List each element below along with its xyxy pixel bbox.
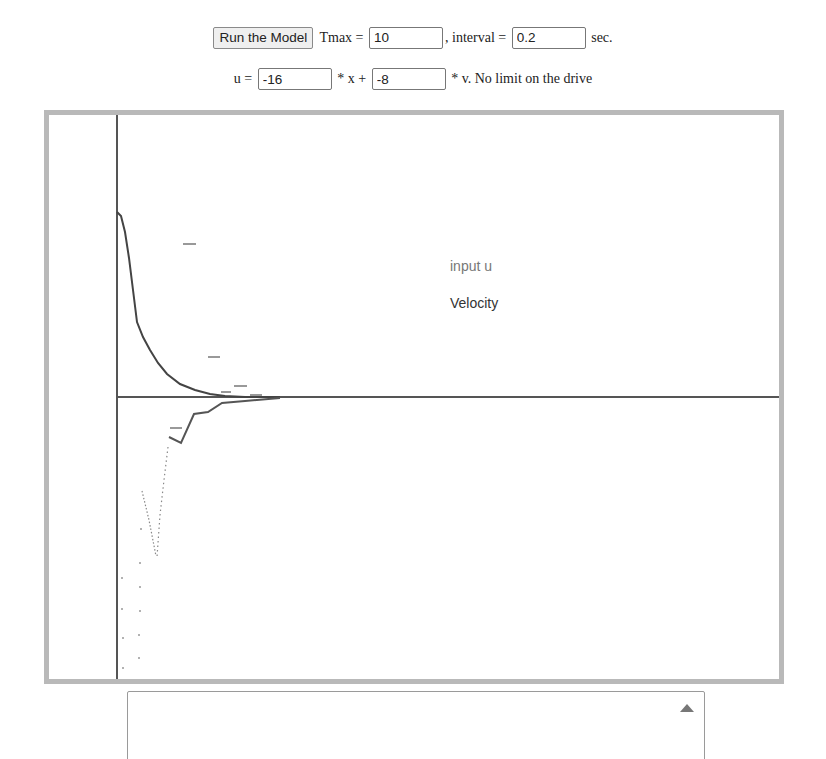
- control-law-row: u = * x + * v. No limit on the drive: [0, 67, 826, 91]
- input-u-curve: [169, 398, 280, 443]
- velocity-curve: [117, 212, 280, 397]
- input-u-dotted-b: [142, 491, 156, 556]
- run-controls-row: Run the Model Tmax = , interval = sec.: [0, 25, 826, 50]
- x-gain-input[interactable]: [258, 68, 332, 90]
- plot-canvas: [49, 115, 779, 679]
- x-label: * x +: [334, 71, 370, 87]
- simulation-plot: input u Velocity: [44, 110, 784, 684]
- v-label: * v. No limit on the drive: [448, 71, 593, 87]
- v-gain-input[interactable]: [372, 68, 446, 90]
- scroll-up-icon[interactable]: [680, 704, 694, 712]
- input-u-dotted-a: [157, 447, 168, 557]
- legend-input-u: input u: [450, 258, 492, 274]
- legend-velocity: Velocity: [450, 295, 498, 311]
- tmax-input[interactable]: [369, 27, 443, 49]
- interval-label: , interval =: [445, 30, 510, 46]
- interval-input[interactable]: [512, 27, 586, 49]
- tmax-label: Tmax =: [316, 30, 367, 46]
- output-console: [127, 691, 705, 759]
- u-label: u =: [234, 71, 256, 87]
- interval-unit: sec.: [588, 30, 613, 46]
- run-model-button[interactable]: Run the Model: [213, 27, 313, 49]
- scatter-dots: [121, 528, 142, 669]
- output-textarea[interactable]: [128, 692, 704, 759]
